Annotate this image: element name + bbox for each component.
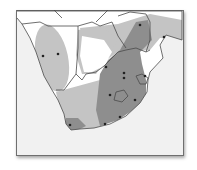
range-map [0,0,197,170]
